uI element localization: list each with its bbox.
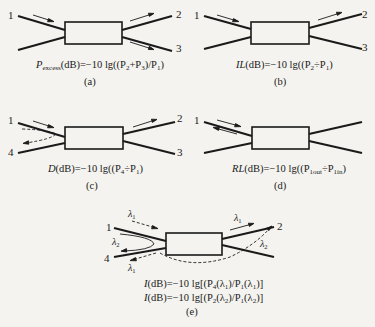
port-label-3: 3 <box>177 147 183 158</box>
lambda1-label-port4: λ1 <box>128 263 136 273</box>
port-label-1: 1 <box>194 115 200 126</box>
formula-directivity: D(dB)=−10 lg((P4÷P1) <box>48 163 143 175</box>
arrow-lambda1-out-port2 <box>230 223 254 230</box>
port-label-3: 3 <box>362 42 368 53</box>
arrow-out-port2 <box>133 119 157 127</box>
port-label-1: 1 <box>8 10 14 21</box>
arrow-out-port2 <box>318 12 342 20</box>
caption-e: (e) <box>186 306 198 318</box>
formula-return-loss: RL(dB)=−10 lg((P1out÷P1in) <box>232 163 346 175</box>
port-label-4: 4 <box>104 253 110 264</box>
port-label-3: 3 <box>176 43 182 54</box>
caption-d: (d) <box>274 180 286 192</box>
arrow-dashed-reflect-port4 <box>22 129 56 144</box>
panel-c-directivity: 1 2 3 4 D(dB)=−10 lg((P4÷P1) (c) <box>0 110 190 195</box>
port-label-1: 1 <box>194 10 200 21</box>
caption-c: (c) <box>86 180 98 192</box>
arrow-in-port1 <box>33 121 54 128</box>
caption-a: (a) <box>84 76 96 88</box>
port-label-2: 2 <box>362 9 368 20</box>
port-label-4: 4 <box>8 147 14 158</box>
lambda1-label-port2: λ1 <box>234 213 242 223</box>
port-label-1: 1 <box>8 115 14 126</box>
lambda1-label-in: λ1 <box>128 209 136 219</box>
formula-isolation-1: I(dB)=−10 lg[(P4(λ1)/P1(λ1)] <box>144 278 263 290</box>
coupler-diagram-b <box>190 0 375 110</box>
formula-excess-loss: Pexcess(dB)=−10 lg((P2+P3)/P1) <box>36 59 164 71</box>
arrow-out-port2 <box>130 13 154 21</box>
port-label-2: 2 <box>177 113 183 124</box>
formula-isolation-2: I(dB)=−10 lg[(P2(λ2)/P1(λ2)] <box>144 292 263 304</box>
panel-e-isolation: 1 4 2 λ1 λ2 λ1 λ1 λ2 I(dB)=−10 lg[(P4(λ1… <box>70 195 310 327</box>
panel-a-excess-loss: 1 2 3 Pexcess(dB)=−10 lg((P2+P3)/P1) (a) <box>0 0 190 110</box>
panel-b-insertion-loss: 1 2 3 IL(dB)=−10 lg((P2÷P1) (b) <box>190 0 375 110</box>
caption-b: (b) <box>274 76 286 88</box>
panel-d-return-loss: 1 RL(dB)=−10 lg((P1out÷P1in) (d) <box>190 110 375 195</box>
coupler-diagram-a <box>0 0 190 110</box>
lambda2-label-reflect: λ2 <box>112 237 120 247</box>
formula-insertion-loss: IL(dB)=−10 lg((P2÷P1) <box>236 59 333 71</box>
port-label-1: 1 <box>106 222 112 233</box>
port-label-2: 2 <box>176 9 182 20</box>
arrow-lambda1-in-dashed <box>132 221 158 229</box>
lambda2-label-port2: λ2 <box>260 239 268 249</box>
port-label-2: 2 <box>277 221 283 232</box>
